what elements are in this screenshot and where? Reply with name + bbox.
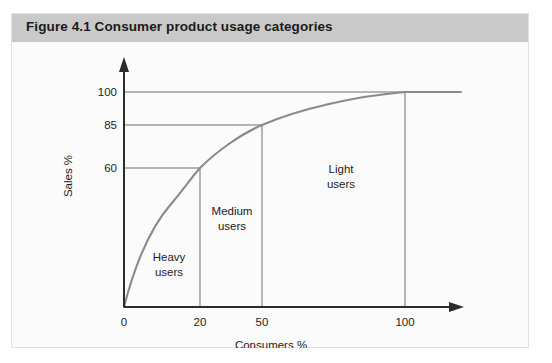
figure-root: Figure 4.1 Consumer product usage catego… (0, 0, 552, 363)
heavy-users-line-1: Heavy (153, 251, 186, 263)
usage-curve-chart: 100 85 60 0 20 50 100 Sales % Consumers … (11, 41, 529, 348)
x-axis-title: Consumers % (235, 339, 307, 348)
medium-users-line-2: users (218, 220, 246, 232)
x-tick-label-0: 0 (121, 316, 127, 328)
medium-users-line-1: Medium (212, 205, 253, 217)
segment-label-light-users: Light users (327, 163, 355, 190)
y-tick-label-60: 60 (104, 162, 117, 174)
x-tick-label-50: 50 (256, 316, 269, 328)
light-users-line-1: Light (329, 163, 355, 175)
chart-plot-area: 100 85 60 0 20 50 100 Sales % Consumers … (11, 41, 529, 348)
segment-label-medium-users: Medium users (212, 205, 253, 232)
x-tick-label-20: 20 (194, 316, 207, 328)
figure-title: Figure 4.1 Consumer product usage catego… (26, 19, 333, 34)
light-users-line-2: users (327, 178, 355, 190)
y-tick-label-100: 100 (98, 86, 117, 98)
x-tick-label-100: 100 (395, 316, 414, 328)
segment-label-heavy-users: Heavy users (153, 251, 186, 278)
figure-title-bar: Figure 4.1 Consumer product usage catego… (12, 14, 528, 42)
y-axis-title: Sales % (62, 155, 74, 197)
heavy-users-line-2: users (155, 266, 183, 278)
x-axis-arrow-icon (449, 302, 464, 312)
y-tick-label-85: 85 (104, 119, 117, 131)
y-axis-arrow-icon (119, 57, 129, 72)
